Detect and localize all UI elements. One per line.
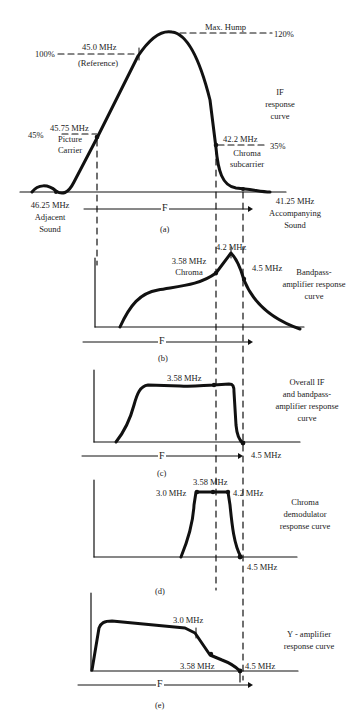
chroma-freq-label: 3.58 MHz Chroma — [166, 256, 212, 278]
chroma-demod-response-curve — [181, 492, 241, 557]
adjacent-sound-label: 46.25 MHz Adjacent Sound — [24, 199, 76, 235]
overall-response-curve — [116, 384, 243, 443]
upper-freq-label-c: 4.5 MHz — [251, 450, 281, 460]
response-curves-drawing — [0, 0, 361, 721]
overall-title: Overall IF and bandpass- amplifier respo… — [268, 376, 346, 424]
chroma-freq-label-e: 3.58 MHz — [180, 661, 214, 671]
panel-a-id: (a) — [160, 224, 169, 234]
low-freq-label-d: 3.0 MHz — [156, 488, 186, 498]
guide-lines — [97, 140, 243, 680]
if-response-title: IF response curve — [255, 86, 305, 122]
frequency-axis-label-a: F — [161, 203, 169, 213]
upper-freq-label-d: 4.5 MHz — [247, 562, 277, 572]
y-amp-panel — [78, 593, 298, 688]
mid-freq-label-c: 3.58 MHz — [167, 373, 201, 383]
pct-35-label: 35% — [270, 141, 286, 151]
chroma-subcarrier-freq-label: 42.2 MHz — [223, 134, 257, 144]
frequency-axis-label-b: F — [158, 336, 166, 346]
panel-b-id: (b) — [158, 353, 168, 363]
panel-d-id: (d) — [155, 586, 165, 596]
pct-100-label: 100% — [35, 49, 55, 59]
max-hump-label: Max. Hump — [205, 22, 246, 32]
frequency-axis-label-e: F — [156, 679, 164, 689]
chroma-subcarrier-label: Chroma subcarrier — [222, 148, 272, 170]
reference-freq-label: 45.0 MHz — [82, 42, 116, 52]
upper-freq-label-e: 4.5 MHz — [245, 661, 275, 671]
center-freq-label-d: 3.58 MHz — [193, 477, 227, 487]
picture-carrier-label: Picture Carrier — [50, 134, 90, 156]
reference-note-label: (Reference) — [78, 58, 118, 68]
frequency-axis-label-c: F — [158, 451, 166, 461]
pct-45-label: 45% — [28, 130, 44, 140]
bandpass-title: Bandpass- amplifier response curve — [276, 266, 352, 302]
high-freq-label-d: 4.2 MHz — [233, 488, 263, 498]
chroma-demod-panel — [94, 480, 297, 559]
y-amp-response-curve — [92, 621, 240, 671]
peak-freq-label: 4.2 MHz — [216, 242, 246, 252]
y-amp-title: Y - amplifier response curve — [274, 628, 344, 652]
pct-120-label: 120% — [274, 29, 294, 39]
knee-freq-label-e: 3.0 MHz — [173, 615, 203, 625]
panel-e-id: (e) — [155, 700, 164, 710]
if-response-panel — [20, 32, 286, 212]
accompanying-sound-label: 41.25 MHz Accompanying Sound — [262, 195, 328, 231]
picture-carrier-freq-label: 45.75 MHz — [50, 123, 89, 133]
chroma-demod-title: Chroma demodulator response curve — [270, 496, 340, 532]
panel-c-id: (c) — [157, 468, 166, 478]
